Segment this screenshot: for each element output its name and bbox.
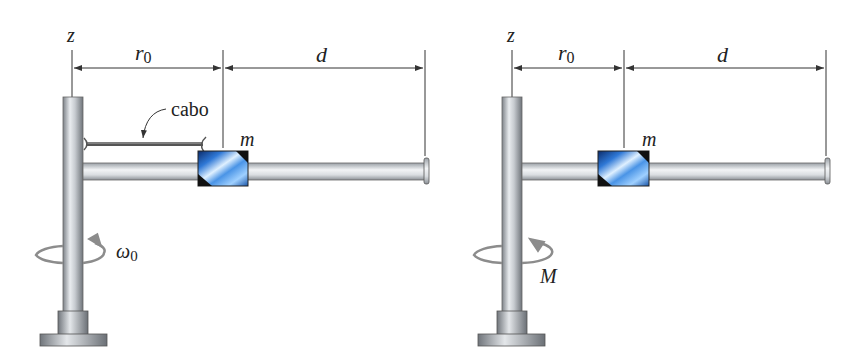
mass-block [198,151,248,186]
mass-label: m [240,128,254,150]
d-label: d [316,42,328,67]
figure-right: z r0 d m M [474,24,830,346]
vertical-post [63,97,83,312]
vertical-post [502,97,522,312]
mass-block [598,151,649,186]
cable-leader-arrow [143,109,166,138]
cable-label: cabo [171,98,209,120]
torque-label: M [539,265,558,287]
r0-label: r0 [558,40,575,66]
figure-left: z r0 d cabo m [36,24,429,346]
r0-label: r0 [135,40,152,66]
z-axis-label: z [66,24,75,46]
base-plate [40,334,107,346]
z-axis-label: z [506,24,515,46]
post-collar [497,311,527,335]
rod-end-cap [825,158,830,184]
horizontal-rod [522,163,826,180]
base-plate [478,334,545,346]
horizontal-rod [83,163,425,180]
angular-velocity-label: ω0 [116,240,138,264]
cable-clamp-left [84,138,87,150]
mass-label: m [642,128,656,150]
diagram-canvas: z r0 d cabo m [0,0,858,364]
post-collar [58,311,88,335]
rod-end-cap [424,158,429,184]
d-label: d [717,42,729,67]
cable-clamp-right [201,137,206,152]
